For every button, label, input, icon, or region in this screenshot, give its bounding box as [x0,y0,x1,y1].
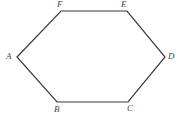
vertex-label-b: B [54,105,60,114]
hexagon-shape [17,11,165,102]
hexagon-svg [0,0,180,118]
hexagon-figure-canvas: A B C D E F [0,0,180,118]
vertex-label-e: E [121,0,127,9]
vertex-label-c: C [127,104,133,113]
vertex-label-f: F [57,0,63,9]
vertex-label-d: D [168,52,175,61]
vertex-label-a: A [6,52,12,61]
